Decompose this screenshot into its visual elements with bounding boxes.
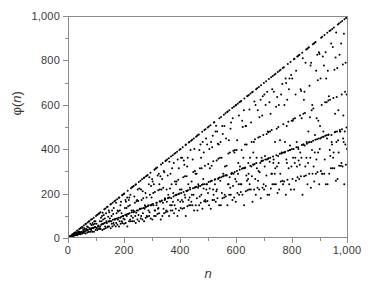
y-axis-label-symbol: φ [9,107,24,115]
chart-figure: 1,000 800 600 400 200 0 0 200 400 600 80… [0,0,372,294]
x-tick-minor [208,238,209,241]
scatter-points [69,17,347,237]
y-tick-label: 0 [54,232,60,244]
x-tick-major [124,238,125,243]
y-axis-label-var: n [9,95,24,102]
x-tick-minor [152,238,153,241]
x-tick-major [347,238,348,243]
x-tick-label: 1,000 [333,244,362,256]
y-tick-label: 800 [41,54,60,66]
x-tick-label: 400 [171,244,190,256]
x-tick-label: 800 [283,244,302,256]
x-axis-label: n [68,266,348,281]
x-tick-major [68,238,69,243]
x-tick-major [180,238,181,243]
y-tick-label: 600 [41,99,60,111]
plot-area [68,16,348,238]
x-tick-major [236,238,237,243]
x-tick-label: 600 [227,244,246,256]
x-tick-minor [320,238,321,241]
y-axis-label: φ(n) [9,92,24,116]
y-tick-label: 1,000 [31,10,60,22]
x-tick-major [292,238,293,243]
y-tick-label: 200 [41,188,60,200]
x-tick-minor [96,238,97,241]
x-tick-label: 200 [115,244,134,256]
x-tick-label: 0 [65,244,71,256]
x-tick-minor [264,238,265,241]
y-tick-label: 400 [41,143,60,155]
